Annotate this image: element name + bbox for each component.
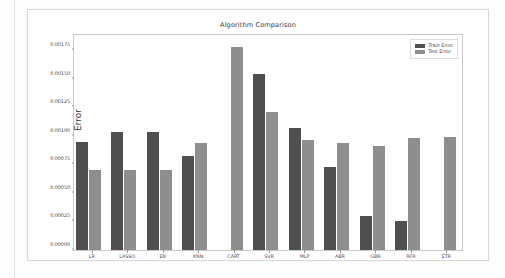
x-tick-mark: [340, 250, 341, 253]
y-tick-label: 0.00125: [50, 98, 74, 104]
y-tick-label: 0.00150: [50, 70, 74, 76]
x-tick-label: LR: [72, 254, 112, 259]
bar-test-error: [124, 170, 136, 250]
x-tick-label: EN: [143, 254, 183, 259]
bar-train-error: [147, 132, 159, 250]
bar-train-error: [76, 142, 88, 251]
legend-swatch: [415, 50, 425, 54]
bar-test-error: [302, 140, 314, 250]
bar-test-error: [373, 146, 385, 250]
x-tick-label: ETR: [426, 254, 466, 259]
y-tick-label: 0.00025: [50, 212, 74, 218]
y-tick-label: 0.00000: [50, 241, 74, 247]
bar-test-error: [160, 170, 172, 250]
y-tick-label: 0.00050: [50, 184, 74, 190]
bar-group: CART: [216, 35, 251, 250]
x-tick-mark: [411, 250, 412, 253]
bar-train-error: [324, 167, 336, 250]
page-gutter-line: [14, 0, 15, 278]
x-tick-label: KNN: [178, 254, 218, 259]
scanned-page: Algorithm Comparison Error 0.000000.0002…: [0, 0, 505, 278]
x-tick-label: RFR: [391, 254, 431, 259]
x-tick-label: LASSO: [107, 254, 147, 259]
legend-label: Test Error: [428, 49, 451, 55]
bar-group: SVR: [251, 35, 286, 250]
legend-item: Test Error: [415, 49, 453, 55]
x-tick-mark: [269, 250, 270, 253]
x-tick-label: CART: [214, 254, 254, 259]
bar-test-error: [89, 170, 101, 250]
bar-train-error: [289, 128, 301, 250]
bar-group: LR: [74, 35, 109, 250]
x-tick-label: SVR: [249, 254, 289, 259]
x-tick-mark: [375, 250, 376, 253]
bar-test-error: [408, 138, 420, 250]
bar-train-error: [360, 216, 372, 250]
bar-test-error: [231, 47, 243, 250]
bar-train-error: [253, 74, 265, 250]
bar-test-error: [195, 143, 207, 250]
bar-train-error: [182, 156, 194, 250]
bar-group: EN: [145, 35, 180, 250]
x-tick-mark: [446, 250, 447, 253]
x-tick-mark: [234, 250, 235, 253]
x-tick-mark: [92, 250, 93, 253]
x-tick-mark: [198, 250, 199, 253]
bar-group: GBR: [358, 35, 393, 250]
bar-series-container: LRLASSOENKNNCARTSVRMLPABRGBRRFRETR: [74, 35, 462, 250]
chart-figure: Algorithm Comparison Error 0.000000.0002…: [27, 9, 489, 261]
y-tick-label: 0.00100: [50, 127, 74, 133]
x-tick-mark: [127, 250, 128, 253]
bar-train-error: [395, 221, 407, 250]
x-tick-label: MLP: [284, 254, 324, 259]
bar-test-error: [266, 112, 278, 250]
x-tick-mark: [304, 250, 305, 253]
bar-group: RFR: [393, 35, 428, 250]
chart-title: Algorithm Comparison: [28, 21, 488, 29]
bar-group: ETR: [429, 35, 464, 250]
bar-group: MLP: [287, 35, 322, 250]
x-tick-label: GBR: [355, 254, 395, 259]
y-tick-label: 0.00075: [50, 155, 74, 161]
bar-test-error: [337, 143, 349, 250]
chart-legend: Train ErrorTest Error: [410, 39, 458, 59]
plot-area: Error 0.000000.000250.000500.000750.0010…: [73, 34, 463, 251]
x-tick-label: ABR: [320, 254, 360, 259]
bar-test-error: [444, 137, 456, 250]
bar-group: LASSO: [109, 35, 144, 250]
legend-swatch: [415, 44, 425, 48]
y-tick-label: 0.00175: [50, 41, 74, 47]
bar-group: KNN: [180, 35, 215, 250]
bar-group: ABR: [322, 35, 357, 250]
bar-train-error: [111, 132, 123, 250]
x-tick-mark: [163, 250, 164, 253]
